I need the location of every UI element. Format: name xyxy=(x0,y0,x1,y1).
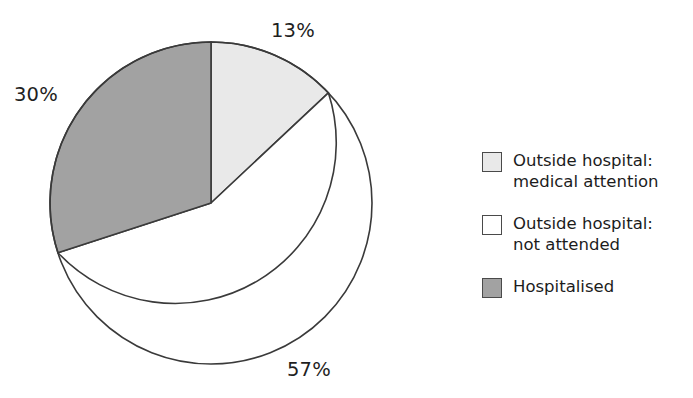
legend-label-outside-hospital-not-attended: Outside hospital: not attended xyxy=(513,213,653,255)
pie-plot-area: 13% 30% 57% xyxy=(0,0,420,398)
legend-label-hospitalised: Hospitalised xyxy=(513,276,614,297)
chart-legend: Outside hospital: medical attention Outs… xyxy=(482,150,687,298)
legend-swatch-hospitalised xyxy=(482,278,502,298)
legend-item-outside-hospital-medical-attention: Outside hospital: medical attention xyxy=(482,150,687,192)
legend-swatch-outside-hospital-not-attended xyxy=(482,215,502,235)
pie-chart-figure: 13% 30% 57% Outside hospital: medical at… xyxy=(0,0,693,398)
legend-item-outside-hospital-not-attended: Outside hospital: not attended xyxy=(482,213,687,255)
pie-svg xyxy=(0,0,420,398)
pie-label-13-percent: 13% xyxy=(271,19,315,42)
legend-swatch-outside-hospital-medical-attention xyxy=(482,152,502,172)
legend-item-hospitalised: Hospitalised xyxy=(482,276,687,298)
pie-label-30-percent: 30% xyxy=(14,83,58,106)
pie-label-57-percent: 57% xyxy=(287,358,331,381)
legend-label-outside-hospital-medical-attention: Outside hospital: medical attention xyxy=(513,150,659,192)
